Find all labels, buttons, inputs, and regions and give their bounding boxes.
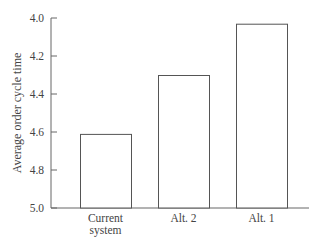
bar-alt-1 xyxy=(237,24,288,208)
bars xyxy=(81,24,288,208)
y-tick-label: 4.2 xyxy=(30,50,45,62)
y-tick-label: 5.0 xyxy=(30,202,45,214)
y-axis-label: Average order cycle time xyxy=(10,53,24,174)
bar-chart: 4.04.24.44.64.85.0 CurrentsystemAlt. 2Al… xyxy=(0,0,323,245)
x-category-label: Alt. 1 xyxy=(248,212,274,224)
y-tick-label: 4.4 xyxy=(30,88,45,100)
x-category-label: Alt. 2 xyxy=(170,212,196,224)
y-tick-label: 4.8 xyxy=(30,164,45,176)
x-category-label: system xyxy=(90,224,122,237)
y-axis: 4.04.24.44.64.85.0 xyxy=(30,12,57,214)
bar-alt-2 xyxy=(159,76,210,209)
bar-current-system xyxy=(81,134,132,208)
y-tick-label: 4.6 xyxy=(30,126,45,138)
x-axis: CurrentsystemAlt. 2Alt. 1 xyxy=(51,208,309,237)
x-category-label: Current xyxy=(88,212,124,224)
y-tick-label: 4.0 xyxy=(30,12,45,24)
